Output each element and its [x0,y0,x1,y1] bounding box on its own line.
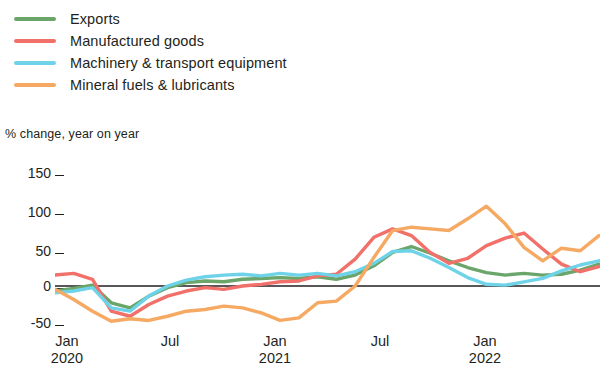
legend-item-manufactured-goods: Manufactured goods [14,30,287,52]
chart-legend: Exports Manufactured goods Machinery & t… [14,8,287,96]
chart-figure: Exports Manufactured goods Machinery & t… [0,0,603,372]
x-tick-jan-2022-year: 2022 [455,350,515,367]
x-tick-jan-2021: Jan 2021 [245,333,305,367]
x-tick-jan-2021-year: 2021 [245,350,305,367]
x-tick-jul-2020-month: Jul [161,333,180,349]
y-tick-150-label: 150 [28,165,51,181]
y-tick-50-label: 50 [35,243,51,259]
legend-item-mineral-fuels: Mineral fuels & lubricants [14,74,287,96]
x-tick-jan-2022: Jan 2022 [455,333,515,367]
legend-label-machinery-transport: Machinery & transport equipment [70,56,287,71]
x-tick-jul-2020: Jul [140,333,200,350]
x-tick-jan-2020-month: Jan [55,333,78,349]
x-tick-jan-2022-month: Jan [473,333,496,349]
legend-swatch-mineral-fuels [14,83,56,87]
x-tick-jan-2020: Jan 2020 [37,333,97,367]
legend-label-mineral-fuels: Mineral fuels & lubricants [70,78,235,93]
y-axis-caption: % change, year on year [5,127,139,141]
plot-area [55,160,600,328]
series-line-exports [55,247,599,308]
legend-swatch-exports [14,17,56,21]
y-tick-100-label: 100 [28,204,51,220]
legend-item-exports: Exports [14,8,287,30]
x-tick-jul-2021: Jul [350,333,410,350]
legend-swatch-machinery-transport [14,61,56,65]
legend-swatch-manufactured-goods [14,39,56,43]
y-tick-minus50-label: -50 [31,315,51,331]
series-canvas [55,160,600,328]
legend-item-machinery-transport: Machinery & transport equipment [14,52,287,74]
legend-label-exports: Exports [70,12,120,27]
x-tick-jan-2020-year: 2020 [37,350,97,367]
x-tick-jan-2021-month: Jan [263,333,286,349]
y-tick-0-label: 0 [43,278,51,294]
legend-label-manufactured-goods: Manufactured goods [70,34,204,49]
x-tick-jul-2021-month: Jul [371,333,390,349]
